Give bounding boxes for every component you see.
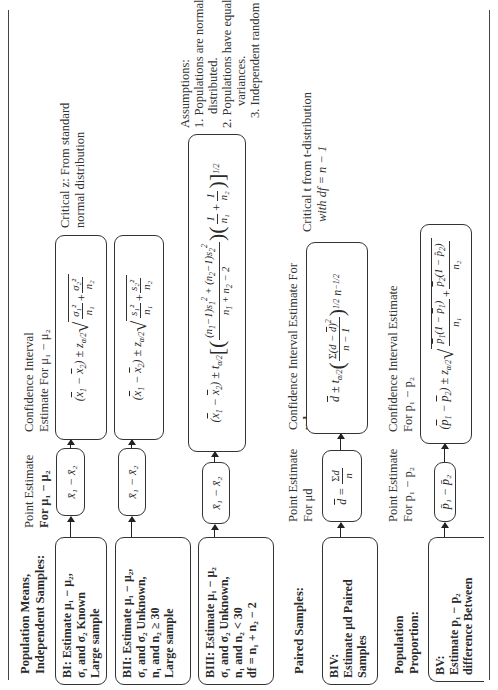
- arrow-BIV-to-point: [340, 523, 341, 537]
- label-paired-point-estimate: Point Estimate For μd: [286, 449, 316, 522]
- point-estimate-box-BIV: d = Σdn: [322, 450, 362, 522]
- arrow-BII-to-point: [131, 517, 132, 537]
- sqrt-BII: √ s₁²n₁+ s₂²n₂: [126, 275, 153, 332]
- arrow-BI-to-point: [70, 517, 71, 537]
- point-estimate-box-BI: x̄₁ − x̄₂: [56, 448, 85, 516]
- point-estimate-box-BIII: x̄₁ − x̄₂: [202, 462, 230, 524]
- ci-formula-box-BV: (p1 − p2) ± zα/2 √ p1(1 − p1)n₁+ p2(1 − …: [420, 224, 472, 444]
- arrow-BIII-to-point: [214, 525, 215, 537]
- case-box-BIV: BIV: Estimate μd Paired Samples: [322, 537, 378, 685]
- point-estimate-box-BII: x̄₁ − x̄₂: [118, 448, 146, 516]
- label-means-point-estimate: Point Estimate For μ₁ − μ₂: [22, 455, 52, 528]
- point-estimate-box-BV: p̄₁ − p̄₂: [434, 462, 456, 522]
- label-means-ci: Confidence Interval Estimate For μ₁ − μ₂: [22, 329, 52, 432]
- ci-formula-box-BIII: (x1 − x2) ± tα/2 [( (n1−1)s12 + (n2−1)s2…: [188, 134, 246, 452]
- section-header-proportion: Population Proportion:: [392, 611, 422, 674]
- case-box-BIII: BIII: Estimate μ₁ − μ₂ σ₁ and σ₂ Unknown…: [198, 537, 274, 685]
- arrow-BV-to-ci: [444, 444, 445, 462]
- label-prop-ci: Confidence Interval Estimate For p₁ − p₂: [386, 286, 416, 432]
- label-prop-point-estimate: Point Estimate For p₁ − p₂: [386, 449, 416, 522]
- note-critical-z: Critical z: From standard normal distrib…: [58, 103, 88, 228]
- case-box-BII: BII: Estimate μ₁ − μ₂, σ₁ and σ₂ Unknown…: [115, 537, 191, 685]
- arrow-BIV-to-ci: [340, 434, 341, 450]
- arrow-BI-to-ci: [70, 440, 71, 448]
- arrow-BIII-to-ci: [214, 452, 215, 462]
- ci-formula-box-BIV: d ± tα/2 ( Σ(d − d)2n − 1 )1/2 n−1/2: [306, 242, 368, 434]
- ci-formula-box-BII: (x1 − x2) ± zα/2 √ s₁²n₁+ s₂²n₂: [114, 235, 164, 440]
- section-header-paired: Paired Samples:: [292, 587, 307, 674]
- case-box-BI: BI: Estimate μ₁ − μ₂, σ₁ and σ₂ Known La…: [55, 537, 107, 685]
- flowchart-canvas: Population Means, Independent Samples: P…: [0, 0, 498, 690]
- note-critical-t: Critical t from t-distribution with df =…: [300, 92, 330, 232]
- bottom-rule: [489, 10, 490, 680]
- top-rule: [8, 10, 9, 680]
- sqrt-BV: √ p1(1 − p1)n₁+ p2(1 − p̂2)n₂: [431, 238, 462, 359]
- case-box-BV: BV: Estimate p₁ − p₂ difference Between: [428, 537, 484, 682]
- ci-formula-box-BI: (x1 − x2) ± zα/2 √ σ₁²n₁+ σ₂²n₂: [55, 235, 107, 440]
- section-header-independent: Population Means, Independent Samples:: [18, 555, 48, 674]
- arrow-BV-to-point: [444, 523, 445, 537]
- sqrt-BI: √ σ₁²n₁+ σ₂²n₂: [68, 274, 95, 333]
- assumptions-list: Assumptions: 1. Populations are normally…: [178, 0, 262, 128]
- arrow-BII-to-ci: [131, 440, 132, 448]
